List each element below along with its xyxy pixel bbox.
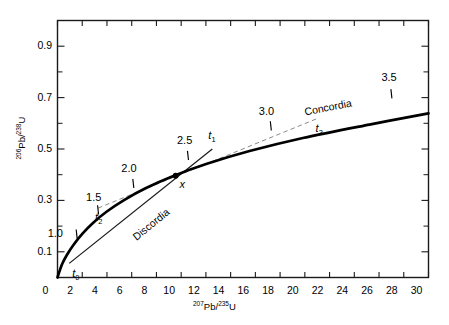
x-axis-title-mid: Pb/ <box>204 301 218 312</box>
x-axis-label-8: 8 <box>132 284 156 296</box>
x-axis-label-0: 0 <box>34 284 58 296</box>
y-axis-title-sup-206: 206 <box>15 149 22 160</box>
concordia-diagram <box>0 0 449 325</box>
age-label-2-5: 2.5 <box>177 134 192 146</box>
x-axis-label-18: 18 <box>256 284 280 296</box>
x-axis-label-6: 6 <box>108 284 132 296</box>
series-discordia-line <box>69 149 212 263</box>
plot-canvas <box>0 0 449 325</box>
annotation-t1: t1 <box>208 129 215 144</box>
age-tick-2-0 <box>133 179 134 188</box>
series-concordia-curve <box>58 113 429 277</box>
x-axis-label-30: 30 <box>405 284 429 296</box>
y-axis-title-mid: Pb/ <box>16 134 27 148</box>
y-axis-title: 206Pb/238U <box>15 98 27 178</box>
data-point-x[interactable] <box>173 173 179 179</box>
age-label-3-5: 3.5 <box>381 71 396 83</box>
x-axis-title: 207Pb/235U <box>193 300 236 312</box>
age-tick-3-0 <box>270 121 271 130</box>
age-label-2-0: 2.0 <box>121 162 136 174</box>
x-axis-label-28: 28 <box>380 284 404 296</box>
age-label-3-0: 3.0 <box>259 105 274 117</box>
x-axis-label-22: 22 <box>306 284 330 296</box>
x-axis-label-12: 12 <box>182 284 206 296</box>
x-axis-label-26: 26 <box>355 284 379 296</box>
x-axis-title-end: U <box>229 301 236 312</box>
age-tick-1-0 <box>76 229 77 238</box>
y-axis-label-0.9: 0.9 <box>28 39 52 51</box>
age-label-1-0: 1.0 <box>48 227 63 239</box>
x-axis-label-14: 14 <box>207 284 231 296</box>
y-axis-label-0.1: 0.1 <box>28 245 52 257</box>
y-axis-title-sup-238: 238 <box>15 124 22 135</box>
x-axis-label-10: 10 <box>157 284 181 296</box>
age-tick-3-5 <box>391 89 392 98</box>
annotation-t2: t2 <box>95 211 102 226</box>
x-axis-label-2: 2 <box>58 284 82 296</box>
y-axis-title-end: U <box>16 117 27 124</box>
age-label-1-5: 1.5 <box>86 191 101 203</box>
x-axis-title-sup-207: 207 <box>193 300 204 307</box>
y-axis-label-0.5: 0.5 <box>28 142 52 154</box>
y-axis-label-0.3: 0.3 <box>28 193 52 205</box>
x-axis-title-sup-235: 235 <box>218 300 229 307</box>
x-axis-label-4: 4 <box>83 284 107 296</box>
annotation-t3: t3 <box>316 122 323 137</box>
age-tick-2-5 <box>187 151 188 160</box>
x-axis-label-16: 16 <box>231 284 255 296</box>
y-axis-label-0.7: 0.7 <box>28 91 52 103</box>
x-axis-label-20: 20 <box>281 284 305 296</box>
x-axis-label-24: 24 <box>330 284 354 296</box>
annotation-x: x <box>180 178 186 190</box>
annotation-t0: t0 <box>72 267 79 282</box>
